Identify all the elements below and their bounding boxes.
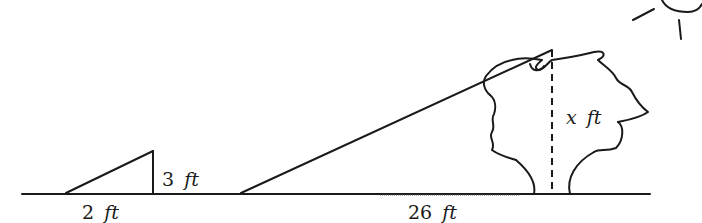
large-base-label: 26 ft [408, 201, 457, 223]
sun-icon [633, 0, 702, 39]
small-triangle [66, 151, 153, 194]
similar-triangles-diagram: 3 ft 2 ft x ft 26 ft [0, 0, 702, 223]
small-triangle-hypotenuse [66, 151, 153, 193]
large-triangle-hypotenuse [241, 50, 552, 193]
small-base-label: 2 ft [82, 201, 119, 223]
large-height-label: x ft [566, 106, 602, 128]
small-height-label: 3 ft [162, 168, 199, 190]
large-triangle [241, 50, 552, 195]
